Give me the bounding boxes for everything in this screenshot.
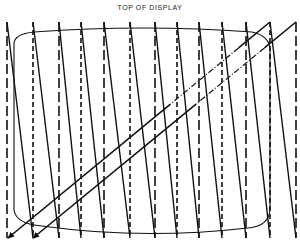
scan-line (81, 22, 104, 238)
scan-line (270, 22, 296, 238)
scan-line (33, 22, 59, 238)
retrace-arrow-segment (239, 22, 270, 48)
scan-line (246, 22, 270, 238)
scan-line (177, 22, 199, 238)
scan-line (155, 22, 177, 238)
scan-line (222, 22, 246, 238)
scan-line (130, 22, 155, 238)
vertical-retrace-arrows (8, 22, 296, 238)
scan-line (59, 22, 81, 238)
scan-line (104, 22, 130, 238)
scan-lines (7, 22, 296, 238)
retrace-arrow-segment (264, 22, 296, 48)
scan-line (7, 22, 33, 238)
retrace-arrow (8, 104, 170, 238)
retrace-arrow (33, 104, 196, 238)
raster-scan-diagram (0, 0, 300, 248)
scan-line (199, 22, 222, 238)
